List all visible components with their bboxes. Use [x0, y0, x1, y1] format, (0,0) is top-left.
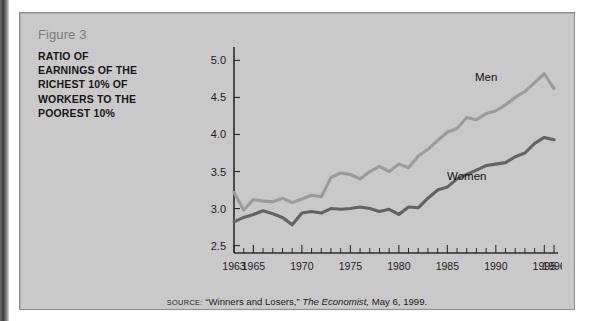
x-tick-label: 1980 — [387, 260, 411, 272]
series-label-men: Men — [475, 71, 497, 83]
chart-svg: 2.53.03.54.04.55.0 196319651970197519801… — [192, 31, 562, 281]
x-tick-label: 1990 — [484, 260, 508, 272]
source-keyword: SOURCE: — [167, 298, 203, 307]
figure-title: RATIO OF EARNINGS OF THE RICHEST 10% OF … — [38, 49, 178, 120]
figure-title-line-4: WORKERS TO THE — [38, 92, 178, 106]
x-axis-labels: 196319651970197519801985199019951996 — [222, 260, 562, 272]
source-note: SOURCE: “Winners and Losers,” The Econom… — [20, 296, 574, 307]
series-line-men — [234, 74, 554, 210]
page-margin — [9, 0, 18, 321]
figure-number: Figure 3 — [38, 27, 178, 42]
figure-caption-block: Figure 3 RATIO OF EARNINGS OF THE RICHES… — [38, 27, 178, 120]
y-tick-label: 4.5 — [211, 91, 226, 103]
x-axis-ticks — [234, 245, 554, 253]
line-chart: 2.53.03.54.04.55.0 196319651970197519801… — [192, 31, 562, 281]
series-line-women — [234, 137, 554, 224]
figure-title-line-5: POOREST 10% — [38, 106, 178, 120]
source-article: “Winners and Losers,” — [205, 296, 299, 307]
y-axis-ticks — [234, 60, 240, 245]
figure-title-line-2: EARNINGS OF THE — [38, 63, 178, 77]
y-tick-label: 3.0 — [211, 203, 226, 215]
figure-title-line-3: RICHEST 10% OF — [38, 77, 178, 91]
figure-panel: Figure 3 RATIO OF EARNINGS OF THE RICHES… — [19, 12, 575, 310]
y-tick-label: 5.0 — [211, 54, 226, 66]
x-tick-label: 1985 — [436, 260, 460, 272]
y-tick-label: 4.0 — [211, 128, 226, 140]
series-label-women: Women — [447, 170, 486, 182]
book-page-edge — [0, 0, 9, 321]
x-tick-label: 1965 — [242, 260, 266, 272]
source-date: May 6, 1999. — [372, 296, 427, 307]
source-publication: The Economist, — [302, 296, 369, 307]
x-tick-label: 1970 — [290, 260, 314, 272]
y-tick-label: 3.5 — [211, 166, 226, 178]
y-tick-label: 2.5 — [211, 240, 226, 252]
figure-title-line-1: RATIO OF — [38, 49, 178, 63]
x-tick-label: 1975 — [339, 260, 363, 272]
y-axis-labels: 2.53.03.54.04.55.0 — [211, 54, 226, 251]
x-tick-label: 1996 — [542, 260, 562, 272]
